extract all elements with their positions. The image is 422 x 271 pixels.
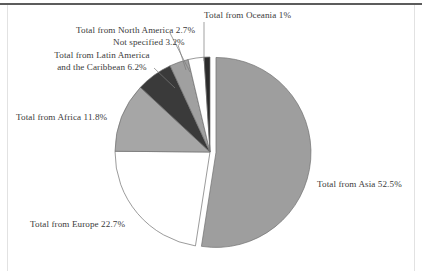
slice-label-asia: Total from Asia 52.5% [317,179,402,191]
pie-slice-total-from-asia[interactable] [201,57,311,247]
slice-label-europe: Total from Europe 22.7% [30,219,125,231]
slice-label-africa: Total from Africa 11.8% [16,112,107,124]
slice-label-north-america: Total from North America 2.7% [76,25,195,37]
slice-label-latin-america-line2: and the Caribbean 6.2% [57,62,147,72]
slice-label-latin-america-line1: Total from Latin America [54,50,149,60]
slice-label-oceania: Total from Oceania 1% [204,10,291,22]
slice-label-latin-america: Total from Latin America and the Caribbe… [34,50,170,73]
pie-slices [115,57,311,247]
slice-label-not-specified: Not specified 3.2% [113,37,185,49]
pie-slice-total-from-europe[interactable] [115,151,210,246]
chart-page: Total from Oceania 1% Total from North A… [0,0,422,271]
